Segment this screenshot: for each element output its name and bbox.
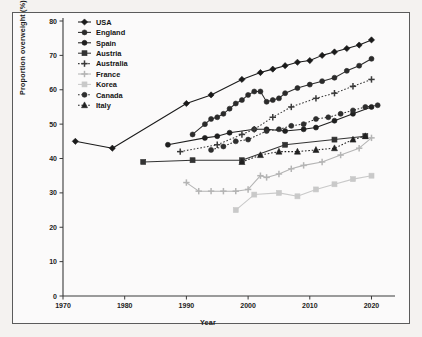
data-point bbox=[288, 104, 294, 110]
data-point bbox=[295, 86, 300, 91]
data-point bbox=[368, 37, 374, 43]
data-point bbox=[257, 69, 263, 75]
data-point bbox=[288, 166, 294, 172]
data-point bbox=[350, 83, 356, 89]
data-point bbox=[283, 142, 288, 147]
data-point bbox=[183, 100, 189, 106]
legend-item-france[interactable]: France bbox=[78, 70, 120, 79]
chart-figure: 0102030405060708019701980199020002010202… bbox=[0, 0, 422, 337]
data-point bbox=[82, 40, 87, 45]
legend-item-korea[interactable]: Korea bbox=[78, 80, 118, 89]
x-tick-label: 2020 bbox=[364, 302, 380, 309]
data-point bbox=[239, 131, 245, 137]
data-point bbox=[313, 116, 318, 121]
data-point bbox=[350, 108, 355, 113]
legend-label: Australia bbox=[96, 59, 129, 68]
data-point bbox=[233, 188, 239, 194]
data-point bbox=[72, 138, 78, 144]
data-point bbox=[356, 42, 362, 48]
data-point bbox=[331, 49, 337, 55]
legend-item-italy[interactable]: Italy bbox=[78, 101, 112, 110]
data-point bbox=[202, 135, 207, 140]
data-point bbox=[313, 147, 319, 153]
legend-label: Canada bbox=[96, 91, 124, 100]
data-point bbox=[263, 174, 269, 180]
data-point bbox=[252, 89, 257, 94]
data-point bbox=[332, 118, 337, 123]
data-point bbox=[209, 116, 214, 121]
data-point bbox=[375, 103, 380, 108]
legend-label: France bbox=[96, 70, 120, 79]
data-point bbox=[313, 125, 318, 130]
data-point bbox=[331, 90, 337, 96]
data-point bbox=[307, 57, 313, 63]
data-point bbox=[141, 159, 146, 164]
data-point bbox=[239, 76, 245, 82]
data-point bbox=[270, 98, 275, 103]
series-canada bbox=[209, 103, 381, 153]
y-tick-label: 0 bbox=[53, 293, 57, 300]
data-point bbox=[252, 192, 257, 197]
legend-item-australia[interactable]: Australia bbox=[78, 59, 129, 68]
data-point bbox=[82, 82, 87, 87]
data-point bbox=[81, 60, 87, 66]
data-point bbox=[363, 104, 368, 109]
x-tick-label: 2010 bbox=[302, 302, 318, 309]
legend-item-usa[interactable]: USA bbox=[78, 18, 112, 27]
legend-label: Korea bbox=[96, 80, 118, 89]
x-tick-label: 1990 bbox=[179, 302, 195, 309]
data-point bbox=[276, 148, 282, 154]
legend: USAEnglandSpainAustriaAustraliaFranceKor… bbox=[78, 18, 129, 110]
data-point bbox=[344, 45, 350, 51]
legend-label: Austria bbox=[96, 49, 122, 58]
y-tick-label: 10 bbox=[49, 258, 57, 265]
data-point bbox=[215, 115, 220, 120]
data-point bbox=[227, 130, 232, 135]
data-point bbox=[177, 148, 183, 154]
data-point bbox=[337, 152, 343, 158]
data-point bbox=[289, 123, 294, 128]
data-point bbox=[258, 89, 263, 94]
data-point bbox=[233, 208, 238, 213]
data-point bbox=[276, 190, 281, 195]
y-tick-label: 70 bbox=[49, 52, 57, 59]
data-point bbox=[81, 19, 87, 25]
legend-item-canada[interactable]: Canada bbox=[78, 91, 124, 100]
data-point bbox=[307, 82, 312, 87]
series-line bbox=[186, 138, 371, 191]
data-point bbox=[82, 30, 87, 35]
data-point bbox=[190, 132, 195, 137]
data-point bbox=[344, 68, 349, 73]
data-point bbox=[208, 188, 214, 194]
data-point bbox=[332, 75, 337, 80]
data-point bbox=[246, 92, 251, 97]
data-point bbox=[332, 137, 337, 142]
data-point bbox=[264, 99, 269, 104]
data-point bbox=[301, 122, 306, 127]
legend-label: USA bbox=[96, 18, 112, 27]
data-point bbox=[196, 188, 202, 194]
data-point bbox=[214, 142, 220, 148]
data-point bbox=[294, 59, 300, 65]
data-point bbox=[270, 114, 276, 120]
data-point bbox=[246, 137, 251, 142]
y-axis-title: Proportion overweight (%) bbox=[18, 0, 27, 95]
data-point bbox=[301, 127, 306, 132]
data-point bbox=[283, 129, 288, 134]
data-point bbox=[270, 66, 276, 72]
data-point bbox=[350, 177, 355, 182]
legend-item-spain[interactable]: Spain bbox=[78, 39, 117, 48]
series-england bbox=[190, 56, 374, 137]
data-point bbox=[357, 63, 362, 68]
legend-item-austria[interactable]: Austria bbox=[78, 49, 122, 58]
data-point bbox=[239, 98, 244, 103]
data-point bbox=[276, 171, 282, 177]
data-point bbox=[326, 115, 331, 120]
series-spain bbox=[165, 104, 374, 147]
x-axis-title: Year bbox=[200, 318, 216, 327]
data-point bbox=[276, 127, 281, 132]
data-point bbox=[369, 173, 374, 178]
legend-item-england[interactable]: England bbox=[78, 28, 126, 37]
data-point bbox=[209, 147, 214, 152]
data-point bbox=[109, 145, 115, 151]
